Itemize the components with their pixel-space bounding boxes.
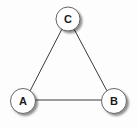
edge-c-b: [74, 29, 107, 91]
graph-svg: C A B: [0, 0, 138, 129]
node-a-label: A: [19, 95, 27, 107]
triangle-graph-diagram: C A B: [0, 0, 138, 129]
edge-c-a: [30, 29, 62, 91]
node-b-label: B: [110, 95, 118, 107]
node-c-label: C: [64, 13, 72, 25]
node-a: A: [11, 89, 36, 114]
node-c: C: [56, 7, 80, 31]
node-b: B: [102, 89, 127, 114]
